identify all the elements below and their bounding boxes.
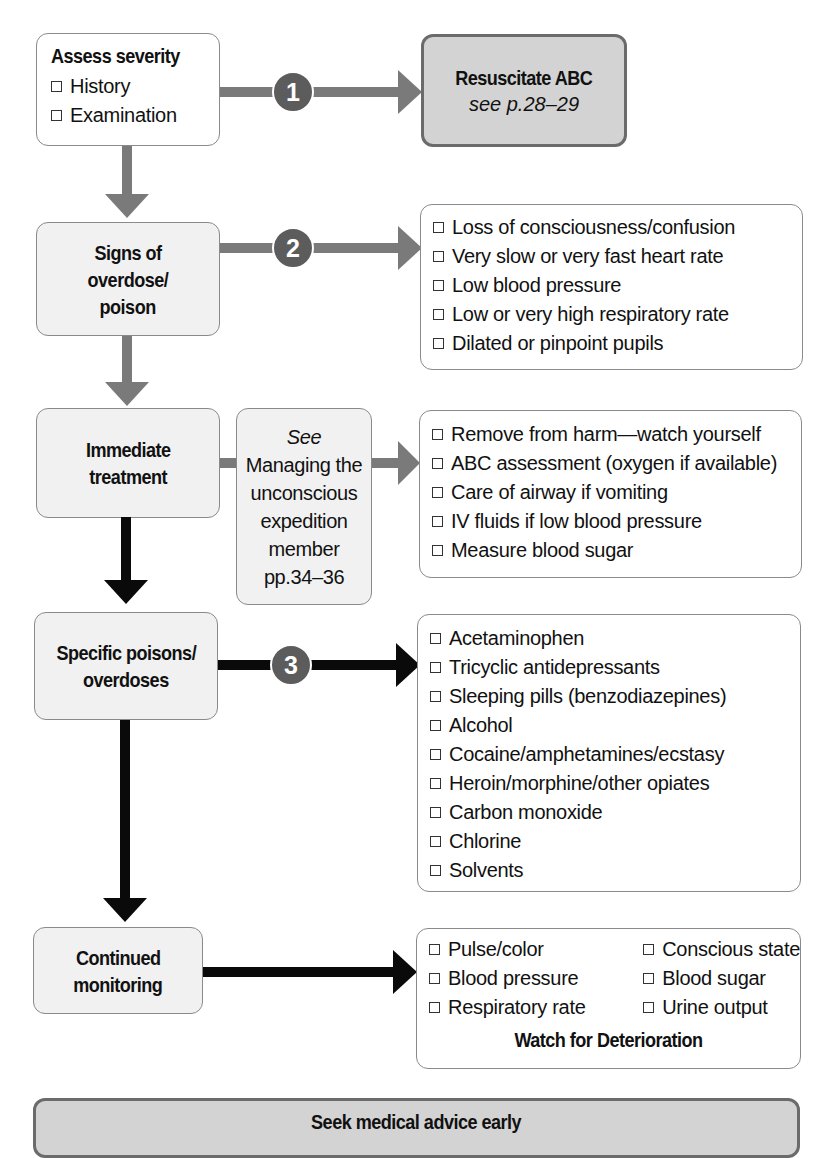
seek-medical-advice-text: Seek medical advice early (311, 1108, 521, 1135)
list-item: Alcohol (430, 711, 800, 740)
list-item: Acetaminophen (430, 624, 800, 653)
list-item: Tricyclic antidepressants (430, 653, 800, 682)
checkbox-icon (51, 110, 62, 121)
list-item: Solvents (430, 856, 800, 885)
checkbox-icon (433, 280, 444, 291)
signs-list-box: Loss of consciousness/confusion Very slo… (420, 204, 803, 370)
list-item: Loss of consciousness/confusion (433, 213, 802, 242)
list-item: Measure blood sugar (432, 536, 801, 565)
signs-list: Loss of consciousness/confusion Very slo… (433, 213, 802, 358)
list-item: Care of airway if vomiting (432, 478, 801, 507)
checkbox-icon (429, 1002, 440, 1013)
checkbox-icon (430, 778, 441, 789)
immediate-title-line: Immediate (86, 436, 171, 463)
arrow-see-to-treatment-head-icon (398, 441, 420, 485)
specific-title-line: Specific poisons/ (56, 639, 196, 666)
see-line: Managing the (246, 451, 362, 479)
arrow-down-1-head-icon (105, 194, 149, 218)
arrow-down-3-shaft (121, 517, 131, 583)
list-item: IV fluids if low blood pressure (432, 507, 801, 536)
signs-of-overdose-box: Signs of overdose/ poison (36, 222, 220, 336)
checkbox-icon (433, 222, 444, 233)
checkbox-icon (430, 749, 441, 760)
monitoring-columns: Pulse/color Blood pressure Respiratory r… (429, 935, 800, 1022)
see-line: member (269, 535, 340, 563)
list-item: Chlorine (430, 827, 800, 856)
checkbox-icon (430, 865, 441, 876)
list-item: Blood pressure (429, 964, 643, 993)
arrow-4-head-icon (393, 950, 417, 994)
arrow-to-see-box-shaft (220, 458, 237, 468)
checkbox-icon (643, 973, 654, 984)
step-marker-1: 1 (272, 71, 314, 113)
immediate-title-line: treatment (89, 463, 167, 490)
checkbox-icon (433, 309, 444, 320)
immediate-treatment-box: Immediate treatment (36, 408, 220, 518)
checkbox-icon (643, 1002, 654, 1013)
step-marker-2: 2 (272, 227, 314, 269)
list-item: Very slow or very fast heart rate (433, 242, 802, 271)
seek-medical-advice-banner: Seek medical advice early (33, 1098, 800, 1158)
see-line: expedition (260, 507, 347, 535)
poisons-list: Acetaminophen Tricyclic antidepressants … (430, 624, 800, 885)
list-item: Dilated or pinpoint pupils (433, 329, 802, 358)
list-item: ABC assessment (oxygen if available) (432, 449, 801, 478)
see-line: unconscious (251, 479, 358, 507)
list-item: Urine output (643, 993, 800, 1022)
arrow-down-2-shaft (122, 336, 132, 384)
assess-severity-box: Assess severity History Examination (36, 33, 220, 146)
checkbox-icon (432, 429, 443, 440)
monitoring-title-line: monitoring (73, 971, 162, 998)
checkbox-icon (433, 338, 444, 349)
checkbox-icon (432, 458, 443, 469)
list-item: Heroin/morphine/other opiates (430, 769, 800, 798)
arrow-down-2-head-icon (105, 382, 149, 406)
list-item: Sleeping pills (benzodiazepines) (430, 682, 800, 711)
list-item: Examination (51, 101, 219, 130)
resuscitate-abc-box: Resuscitate ABC see p.28–29 (421, 34, 627, 147)
list-item: Cocaine/amphetamines/ecstasy (430, 740, 800, 769)
arrow-2-head-icon (398, 226, 422, 270)
step-marker-3: 3 (270, 644, 312, 686)
watch-for-deterioration: Watch for Deterioration (444, 1026, 773, 1053)
arrow-down-4-shaft (120, 720, 130, 902)
list-item: Respiratory rate (429, 993, 643, 1022)
list-item: Remove from harm—watch yourself (432, 420, 801, 449)
see-page-ref: pp.34–36 (264, 563, 344, 591)
monitoring-list-box: Pulse/color Blood pressure Respiratory r… (416, 928, 801, 1069)
list-item: Pulse/color (429, 935, 643, 964)
checkbox-icon (430, 720, 441, 731)
resuscitate-title: Resuscitate ABC (455, 64, 592, 91)
checkbox-icon (430, 662, 441, 673)
checkbox-icon (430, 836, 441, 847)
poisons-list-box: Acetaminophen Tricyclic antidepressants … (417, 614, 801, 892)
arrow-down-3-head-icon (104, 580, 148, 604)
arrow-down-4-head-icon (103, 898, 147, 922)
checkbox-icon (430, 633, 441, 644)
list-item: Carbon monoxide (430, 798, 800, 827)
treatment-list-box: Remove from harm—watch yourself ABC asse… (419, 410, 802, 578)
checkbox-icon (643, 944, 654, 955)
monitoring-list-right: Conscious state Blood sugar Urine output (643, 935, 800, 1022)
checkbox-icon (432, 487, 443, 498)
arrow-1-head-icon (398, 70, 422, 114)
checkbox-icon (429, 944, 440, 955)
see-reference-box: See Managing the unconscious expedition … (236, 408, 372, 605)
assess-severity-title: Assess severity (51, 42, 195, 69)
checkbox-icon (432, 516, 443, 527)
list-item: Low blood pressure (433, 271, 802, 300)
continued-monitoring-box: Continued monitoring (33, 927, 203, 1014)
checkbox-icon (429, 973, 440, 984)
signs-title-line: Signs of (94, 239, 161, 266)
signs-title-line: poison (100, 293, 156, 320)
list-item: History (51, 72, 219, 101)
specific-poisons-box: Specific poisons/ overdoses (34, 612, 218, 720)
checkbox-icon (433, 251, 444, 262)
list-item: Low or very high respiratory rate (433, 300, 802, 329)
list-item: Blood sugar (643, 964, 800, 993)
checkbox-icon (430, 807, 441, 818)
see-label: See (287, 423, 321, 451)
arrow-4-shaft (203, 967, 397, 977)
checkbox-icon (51, 81, 62, 92)
arrow-down-1-shaft (122, 146, 132, 196)
